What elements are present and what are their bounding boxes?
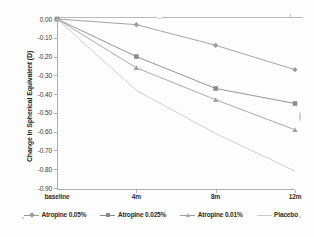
x-tick-label: 12m bbox=[265, 193, 314, 201]
x-tick-mark bbox=[136, 190, 137, 193]
y-tick-mark bbox=[54, 188, 57, 189]
y-tick-mark bbox=[54, 57, 57, 58]
y-tick-mark bbox=[54, 150, 57, 151]
y-tick-label: -0.20 bbox=[12, 53, 52, 60]
y-axis-line bbox=[57, 18, 58, 190]
legend-swatch-none-icon bbox=[257, 211, 272, 219]
legend-swatch-triangle-icon bbox=[180, 211, 195, 219]
y-tick-label: -0.40 bbox=[12, 91, 52, 98]
legend-item[interactable]: Atropine 0.01% bbox=[180, 211, 242, 219]
x-axis-line bbox=[57, 189, 295, 190]
y-tick-mark bbox=[54, 94, 57, 95]
y-tick-mark bbox=[54, 169, 57, 170]
y-tick-mark bbox=[54, 75, 57, 76]
x-tick-label: 4m bbox=[106, 193, 166, 201]
series-4 bbox=[57, 19, 295, 171]
y-tick-label: -0.30 bbox=[12, 72, 52, 79]
y-tick-mark bbox=[54, 19, 57, 20]
y-tick-label: -0.80 bbox=[12, 166, 52, 173]
data-point bbox=[134, 22, 139, 27]
data-point bbox=[213, 86, 218, 91]
y-tick-label: -0.50 bbox=[12, 109, 52, 116]
legend-swatch-diamond-icon bbox=[24, 211, 39, 219]
legend-item[interactable]: Atropine 0.05% bbox=[24, 211, 86, 219]
y-tick-label: -0.70 bbox=[12, 147, 52, 154]
plot-top-border bbox=[57, 17, 303, 18]
data-point bbox=[293, 101, 298, 106]
x-tick-mark bbox=[295, 190, 296, 193]
chart-legend: Atropine 0.05%Atropine 0.025%Atropine 0.… bbox=[24, 207, 298, 223]
y-tick-label: -0.10 bbox=[12, 34, 52, 41]
y-tick-mark bbox=[54, 113, 57, 114]
legend-label: Atropine 0.01% bbox=[198, 211, 243, 219]
y-axis-title: Change in Spherical Equivalent (D) bbox=[26, 27, 33, 187]
data-point bbox=[292, 127, 297, 132]
series-3 bbox=[54, 16, 297, 132]
y-tick-label: 0.00 bbox=[12, 16, 52, 23]
legend-item[interactable]: Placebo bbox=[257, 211, 298, 219]
chart-figure: Change in Spherical Equivalent (D) 0.00-… bbox=[0, 0, 314, 237]
series-line bbox=[57, 19, 295, 171]
legend-label: Atropine 0.05% bbox=[42, 211, 87, 219]
data-point bbox=[134, 54, 139, 59]
legend-swatch-square-icon bbox=[100, 211, 115, 219]
legend-item[interactable]: Atropine 0.025% bbox=[100, 211, 166, 219]
series-1 bbox=[54, 16, 297, 72]
y-tick-mark bbox=[54, 38, 57, 39]
scan-artifact-bottom-right bbox=[299, 216, 301, 218]
series-line bbox=[57, 19, 295, 130]
y-tick-label: -0.60 bbox=[12, 128, 52, 135]
y-tick-mark bbox=[54, 132, 57, 133]
x-tick-label: 8m bbox=[186, 193, 246, 201]
series-line bbox=[57, 19, 295, 104]
legend-label: Atropine 0.025% bbox=[118, 211, 166, 219]
data-point bbox=[134, 65, 139, 70]
plot-top-border-tick bbox=[290, 14, 291, 18]
data-point bbox=[213, 43, 218, 48]
x-tick-label: baseline bbox=[27, 193, 87, 201]
legend-label: Placebo bbox=[274, 211, 298, 219]
scan-artifact-right bbox=[299, 112, 301, 121]
y-tick-label: -0.90 bbox=[12, 185, 52, 192]
x-tick-mark bbox=[216, 190, 217, 193]
series-2 bbox=[55, 17, 298, 106]
plot-top-border-notch bbox=[155, 14, 164, 19]
data-point bbox=[213, 97, 218, 102]
series-line bbox=[57, 19, 295, 70]
data-point bbox=[292, 67, 297, 72]
